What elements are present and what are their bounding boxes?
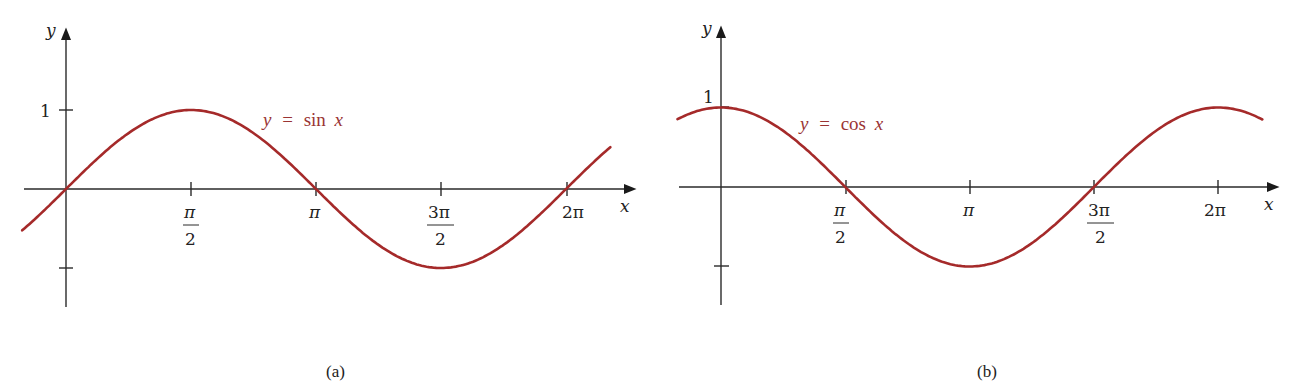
x-tick-label-pi: π — [308, 202, 321, 222]
x-tick-label-two-pi: 2π — [1204, 200, 1226, 220]
y-tick-label-1: 1 — [703, 87, 714, 107]
panel-b-cosine-chart: y x 1 π 2 π 3π 2 2π y = cos x (b) — [678, 18, 1278, 381]
x-tick-label-three-half-pi-den: 2 — [1095, 227, 1106, 247]
x-tick-label-three-half-pi-num: 3π — [428, 202, 450, 222]
x-tick-label-half-pi-den: 2 — [185, 229, 196, 249]
curve-label-sin: y = sin x — [261, 109, 344, 130]
y-axis-label: y — [701, 18, 712, 38]
x-tick-label-half-pi-den: 2 — [835, 227, 846, 247]
caption-b: (b) — [977, 362, 997, 381]
x-tick-label-half-pi-num: π — [833, 200, 846, 220]
x-tick-label-three-half-pi-den: 2 — [435, 229, 446, 249]
x-axis-label: x — [1264, 194, 1274, 214]
panel-a-sine-chart: y x 1 π 2 π 3π 2 2π y = sin x (a) — [22, 20, 634, 381]
y-axis-label: y — [45, 20, 56, 40]
curve-label-cos: y = cos x — [798, 113, 884, 134]
x-axis-label: x — [620, 196, 630, 216]
x-tick-label-three-half-pi-num: 3π — [1088, 200, 1110, 220]
figure: y x 1 π 2 π 3π 2 2π y = sin x (a) y x 1 — [0, 0, 1294, 389]
x-tick-label-half-pi-num: π — [183, 202, 196, 222]
y-tick-label-1: 1 — [40, 101, 51, 121]
x-tick-label-pi: π — [962, 200, 975, 220]
caption-a: (a) — [326, 362, 345, 381]
x-tick-label-two-pi: 2π — [562, 202, 584, 222]
